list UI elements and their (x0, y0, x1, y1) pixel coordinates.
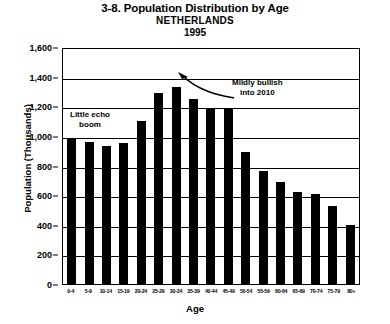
bar-30-34 (172, 87, 181, 284)
y-axis-tick (53, 107, 58, 108)
x-axis-tick-label: 60-64 (272, 288, 290, 294)
x-axis-tick-label: 75-79 (325, 288, 343, 294)
annotation-arrow-icon (176, 70, 236, 100)
y-axis-tick (53, 136, 58, 137)
y-axis-tick-label: 400 (37, 221, 52, 231)
x-axis-tick-label: 20-24 (132, 288, 150, 294)
bar-60-64 (276, 182, 285, 284)
x-axis-tick-label: 5-9 (80, 288, 98, 294)
annotation-little-echo-boom: Little echo boom (70, 110, 110, 129)
bar-10-14 (102, 146, 111, 284)
bar-80+ (346, 225, 355, 284)
bar-slot (133, 49, 150, 284)
x-axis-tick-label: 80+ (343, 288, 361, 294)
y-axis-tick (53, 77, 58, 78)
x-axis-tick-label: 35-39 (185, 288, 203, 294)
bar-slot (98, 49, 115, 284)
chart-subtitle-year: 1995 (0, 27, 390, 39)
bar-slot (342, 49, 359, 284)
y-axis: Population (Thousands) 02004006008001,00… (0, 48, 58, 285)
x-axis-tick-label: 55-59 (255, 288, 273, 294)
y-axis-tick (53, 196, 58, 197)
bar-40-44 (206, 108, 215, 284)
y-axis-tick-label: 1,200 (29, 102, 52, 112)
bar-0-4 (67, 139, 76, 284)
bar-5-9 (85, 142, 94, 284)
x-axis-tick-label: 45-49 (220, 288, 238, 294)
y-axis-tick (53, 166, 58, 167)
x-axis-title: Age (0, 303, 390, 314)
y-axis-tick-label: 1,000 (29, 132, 52, 142)
y-axis-tick (53, 225, 58, 226)
bar-slot (307, 49, 324, 284)
bar-25-29 (154, 93, 163, 284)
bar-35-39 (189, 99, 198, 284)
y-axis-tick-label: 1,600 (29, 43, 52, 53)
x-axis-tick-label: 65-69 (290, 288, 308, 294)
bar-slot (289, 49, 306, 284)
bar-55-59 (259, 171, 268, 284)
x-axis-tick-labels: 0-45-910-1415-1920-2425-2930-3435-3940-4… (62, 288, 360, 294)
bar-20-24 (137, 121, 146, 284)
y-axis-tick-label: 0 (47, 280, 52, 290)
chart-title-block: 3-8. Population Distribution by Age NETH… (0, 2, 390, 39)
x-axis-tick-label: 40-44 (202, 288, 220, 294)
bar-slot (150, 49, 167, 284)
bar-70-74 (311, 194, 320, 284)
y-axis-title: Population (Thousands) (22, 69, 33, 249)
bar-slot (115, 49, 132, 284)
y-axis-tick (53, 285, 58, 286)
chart-subtitle-country: NETHERLANDS (0, 15, 390, 27)
y-axis-tick-label: 800 (37, 162, 52, 172)
x-axis-tick-label: 0-4 (62, 288, 80, 294)
bar-15-19 (119, 143, 128, 284)
y-axis-tick-label: 1,400 (29, 73, 52, 83)
y-axis-tick (53, 48, 58, 49)
annotation-mildly-bullish: Mildly bullish into 2010 (232, 78, 283, 97)
page-title: 3-8. Population Distribution by Age (0, 2, 390, 15)
x-axis-tick-label: 25-29 (150, 288, 168, 294)
x-axis-tick-label: 15-19 (115, 288, 133, 294)
x-axis-tick-label: 30-34 (167, 288, 185, 294)
bar-75-79 (328, 206, 337, 285)
bar-slot (324, 49, 341, 284)
y-axis-tick-label: 200 (37, 250, 52, 260)
y-axis-tick (53, 255, 58, 256)
bar-45-49 (224, 108, 233, 284)
bar-slot (80, 49, 97, 284)
y-axis-tick-label: 600 (37, 191, 52, 201)
bar-50-54 (241, 152, 250, 284)
bar-65-69 (293, 192, 302, 284)
x-axis-tick-label: 10-14 (97, 288, 115, 294)
chart-figure: 3-8. Population Distribution by Age NETH… (0, 0, 390, 324)
x-axis-tick-label: 70-74 (307, 288, 325, 294)
x-axis-tick-label: 50-54 (237, 288, 255, 294)
bar-slot (63, 49, 80, 284)
